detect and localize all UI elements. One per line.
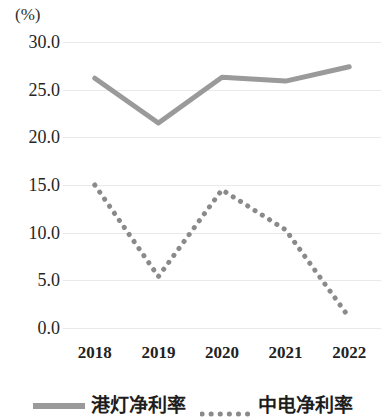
legend-item[interactable]: 中电净利率 xyxy=(200,392,353,419)
series-line xyxy=(95,67,349,123)
plot-area xyxy=(63,42,381,328)
legend-label: 港灯净利率 xyxy=(91,392,186,419)
legend-item[interactable]: 港灯净利率 xyxy=(33,392,186,419)
x-axis-tick-label: 2018 xyxy=(78,342,112,364)
series-line xyxy=(95,185,349,318)
x-axis-tick-labels: 20182019202020212022 xyxy=(63,342,381,368)
x-axis-tick-label: 2021 xyxy=(269,342,303,364)
series-paths xyxy=(63,42,381,328)
y-axis-tick-labels: 0.05.010.015.020.025.030.0 xyxy=(0,0,60,419)
x-axis-tick-label: 2022 xyxy=(332,342,366,364)
y-axis-tick-label: 30.0 xyxy=(0,33,60,51)
legend-label: 中电净利率 xyxy=(258,392,353,419)
x-axis-tick-label: 2020 xyxy=(205,342,239,364)
y-axis-tick-label: 5.0 xyxy=(0,271,60,289)
legend-swatch-solid-icon xyxy=(33,403,85,409)
y-axis-tick-label: 0.0 xyxy=(0,319,60,337)
gridline xyxy=(63,328,381,329)
y-axis-tick-label: 10.0 xyxy=(0,224,60,242)
y-axis-tick-label: 20.0 xyxy=(0,128,60,146)
legend-swatch-dotted-icon xyxy=(200,403,252,409)
y-axis-tick-label: 25.0 xyxy=(0,81,60,99)
line-chart: (%) 0.05.010.015.020.025.030.0 201820192… xyxy=(0,0,386,419)
chart-legend: 港灯净利率中电净利率 xyxy=(0,392,386,419)
y-axis-tick-label: 15.0 xyxy=(0,176,60,194)
x-axis-tick-label: 2019 xyxy=(141,342,175,364)
